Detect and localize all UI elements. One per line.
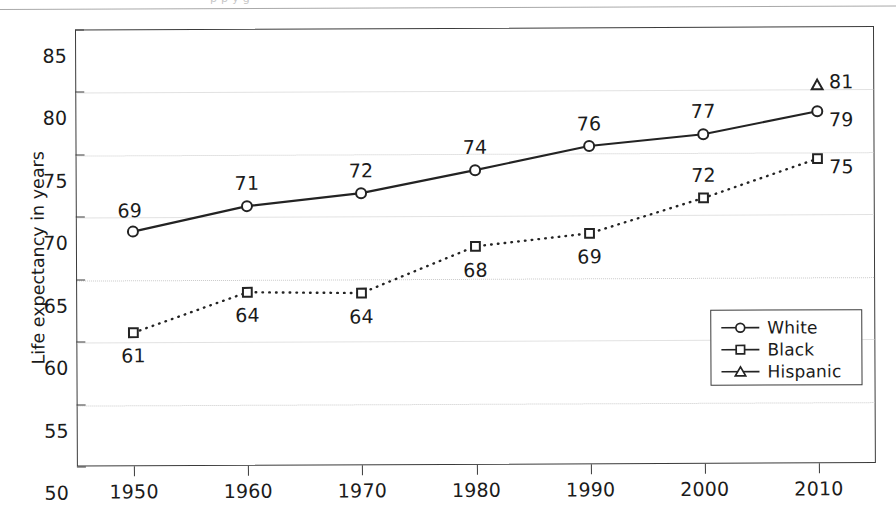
data-label: 69 [118, 200, 143, 222]
data-point-marker [357, 289, 366, 298]
data-label: 69 [577, 245, 602, 267]
x-tick-mark [476, 465, 477, 475]
y-tick-mark [75, 30, 84, 31]
chart-figure: Life expectancy in years 505560657075808… [0, 0, 896, 519]
data-point-marker [129, 328, 138, 337]
data-point-marker [699, 193, 708, 202]
x-tick-label: 2010 [774, 477, 864, 499]
data-label: 68 [463, 258, 488, 280]
y-tick-mark [77, 467, 86, 468]
data-point-marker [128, 227, 138, 237]
legend-item-white: White [719, 316, 861, 339]
data-label: 75 [829, 156, 854, 178]
y-tick-mark [77, 404, 86, 405]
data-point-marker [470, 165, 480, 175]
x-tick-mark [248, 466, 249, 476]
y-tick-mark [76, 342, 85, 343]
legend: White Black Hispanic [710, 309, 862, 386]
data-label: 77 [691, 100, 716, 122]
data-point-marker [813, 154, 822, 163]
y-tick-mark [76, 154, 85, 155]
data-point-marker [243, 288, 252, 297]
data-label: 61 [121, 345, 146, 367]
data-point-marker [698, 129, 708, 139]
data-label: 81 [829, 70, 854, 92]
x-tick-mark [134, 466, 135, 476]
y-tick-mark [75, 92, 84, 93]
data-label: 71 [235, 172, 260, 194]
legend-item-black: Black [719, 338, 861, 361]
x-tick-label: 1990 [546, 478, 636, 500]
x-tick-mark [591, 464, 592, 474]
x-tick-mark [362, 465, 363, 475]
data-point-marker [471, 242, 480, 251]
series-layer [0, 0, 896, 519]
data-label: 72 [349, 159, 374, 181]
data-point-marker [356, 188, 366, 198]
x-tick-label: 1980 [431, 479, 521, 501]
square-icon [719, 342, 761, 358]
data-label: 74 [463, 136, 488, 158]
y-tick-mark [76, 217, 85, 218]
circle-icon [719, 320, 761, 336]
x-tick-label: 1970 [317, 479, 407, 501]
legend-label-hispanic: Hispanic [767, 361, 841, 381]
data-point-marker [584, 141, 594, 151]
legend-label-black: Black [767, 339, 814, 359]
triangle-icon [719, 364, 761, 380]
x-tick-mark [705, 464, 706, 474]
data-point-marker [585, 229, 594, 238]
legend-item-hispanic: Hispanic [719, 360, 861, 383]
x-tick-mark [819, 463, 820, 473]
data-label: 64 [349, 305, 374, 327]
data-label: 79 [829, 108, 854, 130]
data-point-marker [812, 80, 823, 90]
data-point-marker [242, 201, 252, 211]
y-tick-mark [76, 279, 85, 280]
x-tick-label: 1950 [89, 480, 179, 502]
x-tick-label: 2000 [660, 478, 750, 500]
data-label: 76 [577, 112, 602, 134]
x-tick-label: 1960 [203, 480, 293, 502]
data-point-marker [812, 106, 822, 116]
data-label: 64 [235, 304, 260, 326]
legend-label-white: White [767, 317, 818, 337]
data-label: 72 [691, 164, 716, 186]
